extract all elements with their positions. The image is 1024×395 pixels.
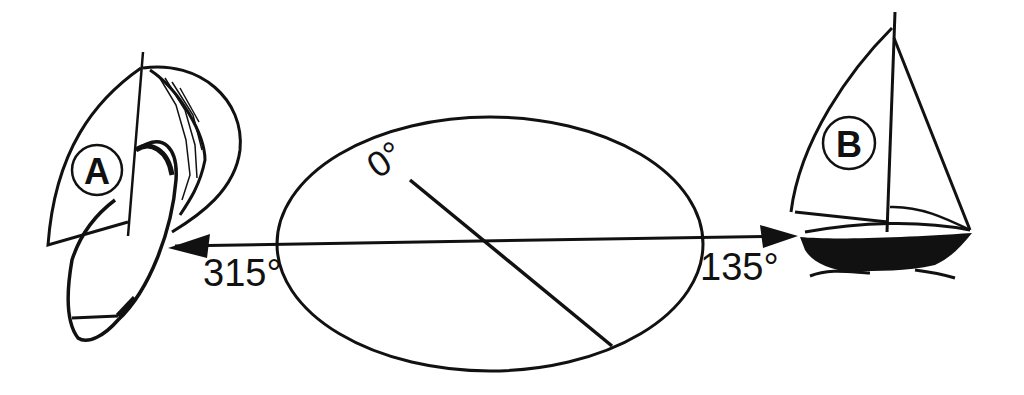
boat-a <box>48 52 240 340</box>
bearing-135-label: 135° <box>700 246 779 288</box>
bearing-diagram: 0° 315° 135° A <box>0 0 1024 395</box>
boat-b-label: B <box>836 124 862 165</box>
north-south-line <box>410 180 612 346</box>
bearing-315-label: 315° <box>203 252 282 294</box>
water-line <box>810 270 955 278</box>
boat-a-label: A <box>84 151 110 192</box>
boat-b-hull <box>800 233 972 272</box>
arrow-to-b-icon <box>760 225 798 248</box>
boat-b <box>791 12 970 232</box>
